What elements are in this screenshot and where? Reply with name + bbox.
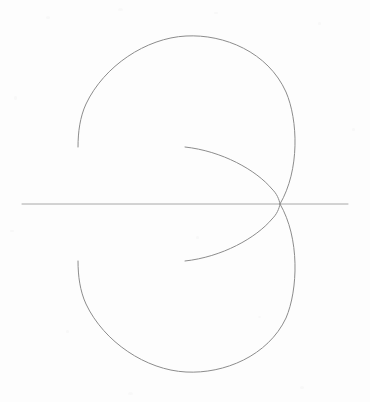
inner-arc-upper [185, 147, 280, 204]
figure-canvas [0, 0, 370, 402]
polar-curve-figure [0, 0, 370, 402]
inner-arc-lower [185, 204, 280, 261]
